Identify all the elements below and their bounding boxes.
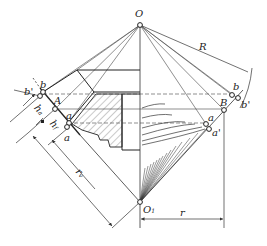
section-detail <box>122 94 140 150</box>
label-R: R <box>199 42 207 52</box>
point-A <box>53 107 58 112</box>
point-a-left-lower <box>65 125 70 130</box>
bevel-gear-construction-diagram <box>0 0 267 246</box>
point-B <box>222 108 227 113</box>
diagram-canvas: O O1 R r B b b' a a' b b' A a a ha hf rv <box>0 0 267 246</box>
label-b-prime-right: b' <box>241 100 250 110</box>
fan-lines-to-O1 <box>140 129 206 202</box>
label-b-prime-left: b' <box>24 87 33 97</box>
label-b-left: b <box>40 80 46 90</box>
label-a-prime-right: a' <box>212 128 221 138</box>
point-b-right <box>230 93 235 98</box>
point-b-prime-left <box>38 94 43 99</box>
point-a-prime-right <box>207 127 212 132</box>
label-O1: O1 <box>143 205 155 215</box>
point-O1 <box>138 200 143 205</box>
point-b-prime-right <box>236 96 241 101</box>
label-A: A <box>54 96 61 106</box>
left-back-cone-extension <box>33 78 140 202</box>
label-r: r <box>180 208 185 218</box>
label-b-right: b <box>233 82 239 92</box>
label-B: B <box>220 98 227 108</box>
label-a-left-lower: a <box>64 133 70 143</box>
label-O: O <box>135 9 143 19</box>
hatched-section <box>72 94 122 147</box>
tick-mark <box>41 120 44 123</box>
point-O <box>138 23 143 28</box>
label-a-left: a <box>66 111 72 121</box>
tooth-profile-arcs <box>142 104 205 145</box>
label-a-right: a <box>208 113 214 123</box>
